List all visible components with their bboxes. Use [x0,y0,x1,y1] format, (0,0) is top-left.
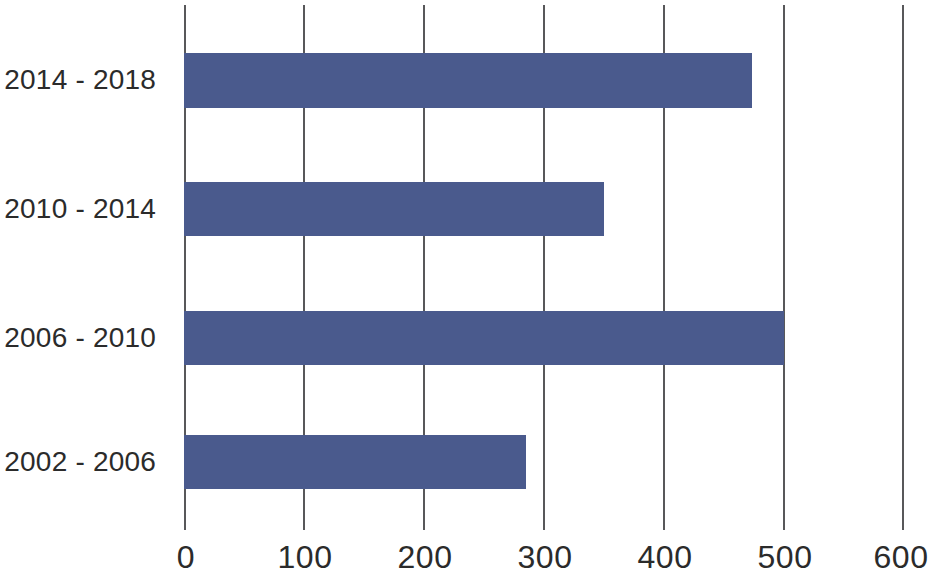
bars-layer [184,5,904,530]
x-axis-tick-label-300: 300 [518,538,573,576]
bar-2002-2006 [184,435,526,489]
y-axis-tick-label-2002-2006: 2002 - 2006 [4,448,156,476]
y-axis-tick-label-2014-2018: 2014 - 2018 [4,66,156,94]
y-axis-tick-label-2010-2014: 2010 - 2014 [4,195,156,223]
x-axis-labels: 0 100 200 300 400 500 600 [0,534,932,581]
y-axis-labels: 2014 - 2018 2010 - 2014 2006 - 2010 2002… [0,0,172,581]
x-axis-tick-label-0: 0 [177,538,195,576]
x-axis-tick-label-600: 600 [874,538,929,576]
bar-2006-2010 [184,311,784,365]
x-axis-tick-label-100: 100 [278,538,333,576]
bar-chart: 2014 - 2018 2010 - 2014 2006 - 2010 2002… [0,0,932,581]
x-axis-tick-label-500: 500 [758,538,813,576]
x-axis-tick-label-200: 200 [398,538,453,576]
bar-2014-2018 [184,53,752,108]
plot-area [184,5,904,530]
y-axis-tick-label-2006-2010: 2006 - 2010 [4,324,156,352]
x-axis-tick-label-400: 400 [638,538,693,576]
bar-2010-2014 [184,182,604,236]
